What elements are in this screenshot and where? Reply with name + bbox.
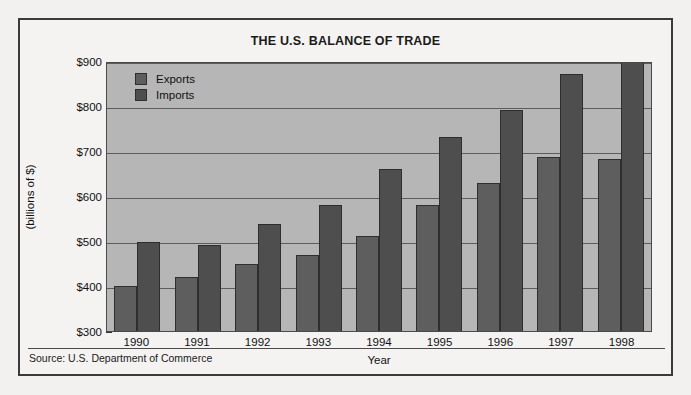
- bar-imports-1990: [137, 242, 160, 331]
- legend-item-exports: Exports: [135, 73, 195, 85]
- chart-legend: ExportsImports: [135, 73, 195, 105]
- bar-imports-1997: [560, 74, 583, 331]
- bar-imports-1996: [500, 110, 523, 331]
- y-axis-tick-label: $700: [56, 146, 102, 158]
- x-axis-tick-label-1993: 1993: [294, 336, 342, 348]
- chart-title: THE U.S. BALANCE OF TRADE: [20, 34, 671, 48]
- x-axis-tick-label-1992: 1992: [234, 336, 282, 348]
- legend-label-imports: Imports: [156, 89, 194, 101]
- x-axis-tick-label-1994: 1994: [355, 336, 403, 348]
- x-axis-tick-label-1995: 1995: [416, 336, 464, 348]
- bar-imports-1995: [439, 137, 462, 331]
- x-axis-tick-label-1996: 1996: [476, 336, 524, 348]
- bar-imports-1994: [379, 169, 402, 331]
- y-axis-tick-label: $800: [56, 101, 102, 113]
- y-axis-title-text: (billions of $): [24, 164, 36, 229]
- y-axis-tick-labels: $900$800$700$600$500$400$300: [50, 62, 102, 332]
- bar-exports-1998: [598, 159, 621, 331]
- bar-imports-1991: [198, 245, 221, 331]
- bar-exports-1991: [175, 277, 198, 331]
- legend-swatch-exports: [135, 73, 147, 85]
- bar-imports-1998: [621, 62, 644, 331]
- x-axis-tick-labels: 199019911992199319941995199619971998: [106, 336, 652, 348]
- bar-imports-1993: [319, 205, 342, 331]
- bar-exports-1995: [416, 205, 439, 331]
- bar-exports-1990: [114, 286, 137, 331]
- bar-group-1994: [356, 63, 402, 331]
- bar-exports-1993: [296, 255, 319, 332]
- y-axis-major-tick: [106, 332, 112, 333]
- bar-exports-1996: [477, 183, 500, 332]
- x-axis-tick-label-1998: 1998: [598, 336, 646, 348]
- bar-exports-1992: [235, 264, 258, 331]
- legend-item-imports: Imports: [135, 89, 195, 101]
- source-note: Source: U.S. Department of Commerce: [29, 352, 212, 364]
- bar-group-1996: [477, 63, 523, 331]
- y-axis-tick-label: $500: [56, 236, 102, 248]
- y-axis-tick-label: $900: [56, 56, 102, 68]
- bar-group-1998: [598, 63, 644, 331]
- bar-group-1995: [416, 63, 462, 331]
- x-axis-tick-label-1990: 1990: [112, 336, 160, 348]
- chart-figure: THE U.S. BALANCE OF TRADE (billions of $…: [18, 18, 673, 376]
- y-axis-tick-label: $300: [56, 326, 102, 338]
- y-axis-tick-label: $400: [56, 281, 102, 293]
- bar-imports-1992: [258, 224, 281, 331]
- bar-group-1993: [296, 63, 342, 331]
- legend-swatch-imports: [135, 89, 147, 101]
- y-axis-title: (billions of $): [22, 62, 38, 332]
- bar-exports-1994: [356, 236, 379, 331]
- x-axis-tick-label-1991: 1991: [173, 336, 221, 348]
- bar-group-1997: [537, 63, 583, 331]
- y-axis-tick-label: $600: [56, 191, 102, 203]
- bar-exports-1997: [537, 157, 560, 331]
- x-axis-tick-label-1997: 1997: [537, 336, 585, 348]
- source-divider: [28, 348, 665, 349]
- bar-group-1992: [235, 63, 281, 331]
- plot-area: ExportsImports: [106, 62, 652, 332]
- legend-label-exports: Exports: [156, 73, 195, 85]
